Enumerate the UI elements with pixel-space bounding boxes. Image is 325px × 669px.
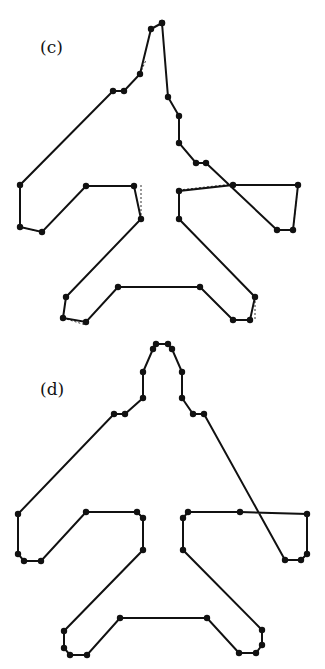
airplane-outline-c <box>17 20 301 325</box>
vertex-marker <box>61 628 67 634</box>
vertex-marker <box>111 411 117 417</box>
vertex-marker <box>190 411 196 417</box>
vertex-marker <box>115 284 121 290</box>
vertex-marker <box>15 511 21 517</box>
vertex-marker <box>63 294 69 300</box>
vertex-marker <box>140 547 146 553</box>
vertex-marker <box>197 284 203 290</box>
vertex-marker <box>159 20 165 26</box>
vertex-marker <box>304 551 310 557</box>
vertex-marker <box>236 650 242 656</box>
vertex-marker <box>169 346 175 352</box>
vertex-marker <box>21 558 27 564</box>
vertex-marker <box>259 627 265 633</box>
vertex-marker <box>67 652 73 658</box>
vertex-marker <box>121 88 127 94</box>
vertex-marker <box>117 615 123 621</box>
vertex-marker <box>295 182 301 188</box>
vertex-marker <box>134 509 140 515</box>
vertex-marker <box>176 188 182 194</box>
vertex-marker <box>84 652 90 658</box>
vertex-marker <box>179 369 185 375</box>
vertex-marker <box>110 88 116 94</box>
vertex-marker <box>176 216 182 222</box>
airplane-polygon-figure <box>0 0 325 669</box>
vertex-marker <box>165 94 171 100</box>
vertex-marker <box>176 113 182 119</box>
polygon-edges <box>20 23 298 322</box>
vertex-marker <box>203 160 209 166</box>
vertex-marker <box>201 411 207 417</box>
vertex-marker <box>140 395 146 401</box>
vertex-marker <box>304 511 310 517</box>
vertex-marker <box>230 182 236 188</box>
vertex-marker <box>138 216 144 222</box>
vertex-marker <box>298 557 304 563</box>
vertex-marker <box>122 411 128 417</box>
vertex-marker <box>83 509 89 515</box>
vertex-marker <box>140 515 146 521</box>
vertex-marker <box>83 183 89 189</box>
vertex-marker <box>61 645 67 651</box>
vertex-marker <box>140 369 146 375</box>
vertex-marker <box>274 227 280 233</box>
vertex-marker <box>247 317 253 323</box>
vertex-marker <box>176 140 182 146</box>
vertex-marker <box>180 515 186 521</box>
vertex-marker <box>237 509 243 515</box>
vertex-marker <box>185 509 191 515</box>
vertex-marker <box>39 229 45 235</box>
vertex-marker <box>204 615 210 621</box>
vertex-marker <box>259 642 265 648</box>
vertex-marker <box>282 557 288 563</box>
polygon-edges <box>18 344 307 655</box>
vertex-marker <box>137 71 143 77</box>
vertex-marker <box>150 346 156 352</box>
vertex-marker <box>253 650 259 656</box>
vertex-marker <box>15 551 21 557</box>
vertex-marker <box>179 395 185 401</box>
vertex-marker <box>83 319 89 325</box>
vertex-marker <box>230 317 236 323</box>
vertex-marker <box>180 547 186 553</box>
vertex-marker <box>38 558 44 564</box>
vertex-marker <box>60 315 66 321</box>
vertex-marker <box>17 182 23 188</box>
vertex-marker <box>252 294 258 300</box>
vertex-marker <box>290 227 296 233</box>
vertex-marker <box>165 341 171 347</box>
vertex-marker <box>131 183 137 189</box>
airplane-outline-d <box>15 341 310 658</box>
vertex-marker <box>193 160 199 166</box>
vertex-marker <box>17 224 23 230</box>
vertex-marker <box>148 26 154 32</box>
